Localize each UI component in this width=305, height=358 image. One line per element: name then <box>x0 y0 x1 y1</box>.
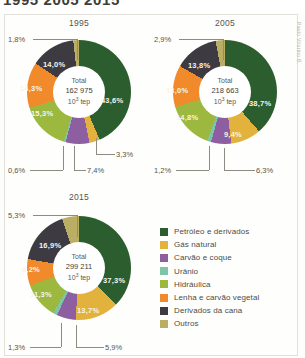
leader-line <box>224 170 255 171</box>
slice-label-gas-2005: 9,4% <box>224 130 242 139</box>
donut-total-unit: 103 tep <box>68 96 90 107</box>
leader-line <box>76 347 104 348</box>
donut-center-2005: Total 218 663 103 tep <box>199 66 251 118</box>
leader-line <box>30 170 63 171</box>
legend-item-hidraulica[interactable]: Hidráulica <box>160 278 296 291</box>
legend-item-label: Carvão e coque <box>174 253 232 262</box>
leader-line <box>61 323 62 347</box>
page-title-strip: 1995 2005 2015 <box>0 0 305 13</box>
donut-total-unit: 103 tep <box>68 272 90 283</box>
legend-item-outros[interactable]: Outros <box>160 317 296 330</box>
callout-carvao-2005: 6,3% <box>256 166 273 175</box>
callout-gas-1995: 3,3% <box>116 150 133 159</box>
callout-uranio-2005: 1,2% <box>154 166 171 175</box>
leader-line <box>74 146 75 170</box>
leader-line <box>77 39 78 60</box>
legend-item-label: Hidráulica <box>174 280 211 289</box>
legend-item-carvao_coque[interactable]: Carvão e coque <box>160 251 296 264</box>
chart-year-label-2005: 2005 <box>152 18 298 28</box>
legend-item-label: Outros <box>174 319 199 328</box>
chart-page: 1995 2005 2015 Paulo Vitorino B. 1995 To… <box>0 0 305 358</box>
donut-total-unit: 103 tep <box>214 96 236 107</box>
leader-line <box>77 215 78 237</box>
page-title: 1995 2005 2015 <box>3 0 120 8</box>
slice-label-lenha-2015: 8,2% <box>22 265 40 274</box>
leader-line <box>176 170 209 171</box>
legend-item-lenha[interactable]: Lenha e carvão vegetal <box>160 291 296 304</box>
pie-chart-2015: 2015 Total 299 211 103 tep 37,3% 13,7% 1… <box>6 192 152 358</box>
slice-label-petroleo-1995: 43,6% <box>101 96 123 105</box>
slice-label-lenha-1995: 14,3% <box>20 84 42 93</box>
legend-item-uranio[interactable]: Urânio <box>160 265 296 278</box>
slice-label-lenha-2005: 13,0% <box>166 86 188 95</box>
slice-label-cana-1995: 14,0% <box>43 60 65 69</box>
callout-outros-1995: 1,8% <box>8 35 25 44</box>
legend-swatch-icon <box>160 267 168 275</box>
legend-item-label: Urânio <box>174 267 198 276</box>
leader-line <box>30 347 61 348</box>
slice-label-cana-2015: 16,9% <box>39 241 61 250</box>
leader-line <box>96 154 115 155</box>
donut-total-value: 162 975 <box>65 86 92 95</box>
legend-swatch-icon <box>160 254 168 262</box>
legend-swatch-icon <box>160 241 168 249</box>
chart-legend: Petróleo e derivadosGás naturalCarvão e … <box>160 225 296 331</box>
legend-swatch-icon <box>160 320 168 328</box>
leader-line <box>63 146 64 170</box>
donut-total-label: Total <box>72 253 87 262</box>
legend-item-derivados_cana[interactable]: Derivados da cana <box>160 304 296 317</box>
legend-item-label: Derivados da cana <box>174 306 242 315</box>
donut-2005: Total 218 663 103 tep <box>173 40 277 144</box>
callout-outros-2005: 2,9% <box>154 35 171 44</box>
donut-total-label: Total <box>72 77 87 86</box>
leader-line <box>76 325 77 347</box>
legend-item-petroleo[interactable]: Petróleo e derivados <box>160 225 296 238</box>
donut-total-label: Total <box>218 77 233 86</box>
chart-year-label-2015: 2015 <box>6 192 152 202</box>
slice-label-gas-2015: 13,7% <box>77 306 99 315</box>
slice-label-hidraulica-2005: 14,8% <box>176 113 198 122</box>
callout-uranio-2015: 1,3% <box>8 343 25 352</box>
donut-total-value: 218 663 <box>211 86 238 95</box>
pie-chart-2005: 2005 Total 218 663 103 tep 38,7% 9,4% 14… <box>152 18 298 190</box>
slice-label-petroleo-2005: 38,7% <box>249 99 271 108</box>
donut-1995: Total 162 975 103 tep <box>27 40 131 144</box>
legend-item-gas[interactable]: Gás natural <box>160 238 296 251</box>
leader-line <box>74 170 86 171</box>
donut-total-value: 299 211 <box>66 262 93 271</box>
slice-label-hidraulica-2015: 11,3% <box>30 290 52 299</box>
legend-item-label: Gás natural <box>174 240 216 249</box>
leader-line <box>179 39 223 40</box>
callout-carvao-1995: 7,4% <box>87 166 104 175</box>
leader-line <box>33 39 77 40</box>
leader-line <box>96 138 97 154</box>
legend-swatch-icon <box>160 228 168 236</box>
callout-carvao-2015: 5,9% <box>105 343 122 352</box>
leader-line <box>209 146 210 170</box>
legend-item-label: Petróleo e derivados <box>174 227 249 236</box>
slice-label-cana-2005: 13,8% <box>188 61 210 70</box>
chart-year-label-1995: 1995 <box>6 18 152 28</box>
legend-swatch-icon <box>160 280 168 288</box>
legend-swatch-icon <box>160 307 168 315</box>
slice-label-petroleo-2015: 37,3% <box>103 276 125 285</box>
legend-swatch-icon <box>160 294 168 302</box>
slice-label-hidraulica-1995: 15,3% <box>31 109 53 118</box>
leader-line <box>33 215 77 216</box>
leader-line <box>224 148 225 170</box>
donut-2015: Total 299 211 103 tep <box>27 216 131 320</box>
callout-outros-2015: 5,3% <box>8 211 25 220</box>
legend-item-label: Lenha e carvão vegetal <box>174 293 259 302</box>
donut-center-1995: Total 162 975 103 tep <box>53 66 105 118</box>
leader-line <box>223 39 224 60</box>
pie-chart-1995: 1995 Total 162 975 103 tep 43,6% 15,3% 1… <box>6 18 152 190</box>
callout-uranio-1995: 0,6% <box>8 166 25 175</box>
